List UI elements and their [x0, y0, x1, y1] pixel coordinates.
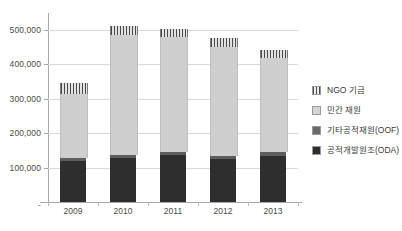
legend-item[interactable]: NGO 기금: [312, 86, 399, 95]
x-axis-tick-label: 2012: [214, 206, 233, 216]
legend-item[interactable]: 민간 재원: [312, 106, 399, 115]
bar-segment: [160, 29, 188, 37]
stacked-bar-chart: - 100,000200,000300,000400,000500,000 20…: [0, 0, 402, 231]
y-axis-tick-label: 300,000: [10, 94, 41, 104]
bar-segment: [210, 38, 238, 47]
ngo-hatch-swatch: [312, 86, 321, 95]
y-axis-tick-label: 400,000: [10, 59, 41, 69]
y-axis-zero-label: -: [38, 200, 41, 210]
y-axis-tick-label: 500,000: [10, 25, 41, 35]
legend-item[interactable]: 기타공적재원(OOF): [312, 126, 399, 135]
bar-segment: [60, 94, 88, 159]
x-axis-tick-label: 2009: [64, 206, 83, 216]
bar-segment: [260, 50, 288, 58]
x-axis-tick: [48, 202, 49, 206]
bar-segment: [60, 83, 88, 93]
bar-segment: [160, 155, 186, 202]
private-swatch: [312, 106, 321, 115]
bar-segment: [110, 158, 136, 202]
x-axis-tick: [298, 202, 299, 206]
x-axis-tick: [148, 202, 149, 206]
x-axis-tick-label: 2010: [114, 206, 133, 216]
x-axis-line: [40, 202, 302, 203]
y-axis-tick-label: 100,000: [10, 163, 41, 173]
legend-item-label: 공적개발원조(ODA): [327, 146, 399, 155]
y-axis-tick-label: 200,000: [10, 128, 41, 138]
legend-item-label: 기타공적재원(OOF): [327, 126, 399, 135]
x-axis-tick: [248, 202, 249, 206]
chart-legend: NGO 기금민간 재원기타공적재원(OOF)공적개발원조(ODA): [312, 86, 399, 155]
bar-segment: [60, 161, 86, 202]
bar-segment: [260, 156, 286, 202]
legend-item-label: NGO 기금: [327, 86, 365, 95]
bar-stack[interactable]: [110, 26, 136, 202]
x-axis-tick: [198, 202, 199, 206]
x-axis-tick: [98, 202, 99, 206]
bar-segment: [110, 35, 138, 155]
legend-item-label: 민간 재원: [327, 106, 361, 115]
bar-segment: [210, 47, 238, 156]
bar-stack[interactable]: [260, 50, 286, 202]
x-axis-tick-label: 2011: [164, 206, 182, 216]
bar-stack[interactable]: [60, 83, 86, 202]
plot-area: 100,000200,000300,000400,000500,000: [48, 16, 298, 202]
bar-segment: [210, 159, 236, 202]
bar-stack[interactable]: [160, 29, 186, 202]
bar-segment: [160, 37, 188, 152]
oof-swatch: [312, 126, 321, 135]
bar-segment: [260, 58, 288, 152]
x-axis-tick-label: 2013: [264, 206, 283, 216]
bars-layer: [48, 16, 298, 202]
legend-item[interactable]: 공적개발원조(ODA): [312, 146, 399, 155]
oda-swatch: [312, 146, 321, 155]
bar-stack[interactable]: [210, 38, 236, 202]
bar-segment: [110, 26, 138, 35]
